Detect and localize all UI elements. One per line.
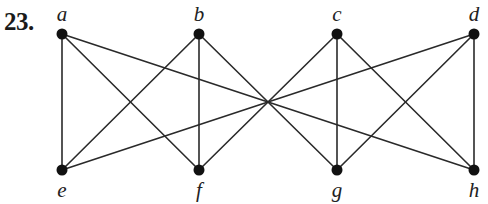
- vertex-a: [57, 29, 68, 40]
- vertex-label-f: f: [196, 178, 205, 202]
- vertex-b: [194, 29, 205, 40]
- vertex-label-a: a: [57, 2, 68, 26]
- graph-edges: [62, 34, 474, 170]
- vertex-label-c: c: [332, 2, 342, 26]
- vertex-label-d: d: [469, 2, 480, 26]
- vertex-label-g: g: [332, 178, 343, 202]
- vertex-d: [469, 29, 480, 40]
- vertex-g: [332, 165, 343, 176]
- vertex-label-h: h: [469, 178, 480, 202]
- vertex-label-b: b: [194, 2, 205, 26]
- vertex-c: [332, 29, 343, 40]
- graph-diagram: abcdefgh: [0, 0, 488, 204]
- vertex-e: [57, 165, 68, 176]
- vertex-label-e: e: [57, 178, 66, 202]
- vertex-f: [194, 165, 205, 176]
- vertex-h: [469, 165, 480, 176]
